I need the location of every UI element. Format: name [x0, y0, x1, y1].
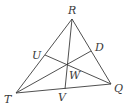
point-labels: R T Q U D V W	[4, 4, 123, 106]
side-RT	[16, 19, 72, 93]
label-D: D	[94, 41, 104, 54]
label-R: R	[67, 4, 76, 17]
label-U: U	[32, 49, 42, 62]
label-T: T	[4, 93, 13, 106]
label-Q: Q	[114, 82, 123, 95]
triangle-diagram: R T Q U D V W	[0, 0, 128, 108]
label-W: W	[69, 69, 82, 82]
triangle-sides	[16, 19, 111, 93]
label-V: V	[58, 91, 67, 104]
